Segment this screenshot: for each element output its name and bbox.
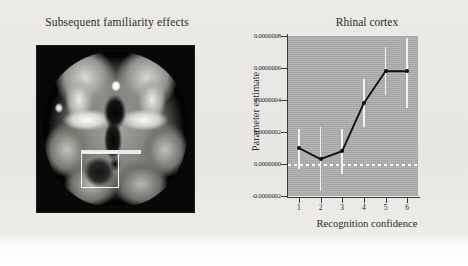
data-point-marker [319,157,323,161]
x-tick-label: 1 [292,203,306,212]
x-tick-label: 3 [335,203,349,212]
left-panel: Subsequent familiarity effects [4,10,230,215]
y-tick-label: 0.0000002 [233,128,281,135]
brain-image-frame [37,46,194,212]
x-axis-line [287,197,420,198]
figure-container: Subsequent familiarity effects Rhinal co… [0,0,468,266]
y-tick-label: -0.0000002 [233,192,281,199]
y-tick-label: 0.0000008 [233,32,281,39]
rhinal-cortex-roi-box [81,152,119,188]
x-tick-label: 4 [357,203,371,212]
figure-page: Subsequent familiarity effects Rhinal co… [0,0,468,266]
data-point-marker [384,69,388,73]
chart-panel: Rhinal cortex Parameter estimate 0.00000… [232,8,466,248]
y-axis-tick-labels: 0.00000080.00000060.00000040.00000020.00… [232,8,281,248]
chart-title: Rhinal cortex [272,16,462,28]
y-tick-label: 0.0000000 [233,160,281,167]
y-axis-line [287,34,288,198]
plot-area [288,36,418,196]
data-point-marker [362,101,366,105]
x-tick-label: 2 [314,203,328,212]
x-axis-title: Recognition confidence [272,218,462,229]
x-tick-label: 5 [379,203,393,212]
y-tick-label: 0.0000004 [233,96,281,103]
y-tick-label: 0.0000006 [233,64,281,71]
left-panel-title: Subsequent familiarity effects [4,16,230,28]
data-point-marker [297,146,301,150]
series-line [288,36,418,196]
x-tick-label: 6 [400,203,414,212]
